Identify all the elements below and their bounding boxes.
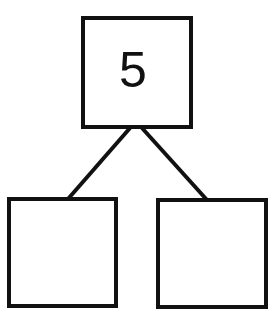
whole-box: 5 xyxy=(83,18,191,127)
right-part-box-border[interactable] xyxy=(158,200,266,307)
edge-whole-to-left-part xyxy=(68,128,130,199)
edge-whole-to-right-part xyxy=(142,128,207,200)
left-part-box[interactable] xyxy=(9,199,116,306)
left-part-box-border[interactable] xyxy=(9,199,116,306)
whole-value: 5 xyxy=(119,42,147,98)
right-part-box[interactable] xyxy=(158,200,266,307)
number-bond-diagram: 5 xyxy=(0,0,280,316)
